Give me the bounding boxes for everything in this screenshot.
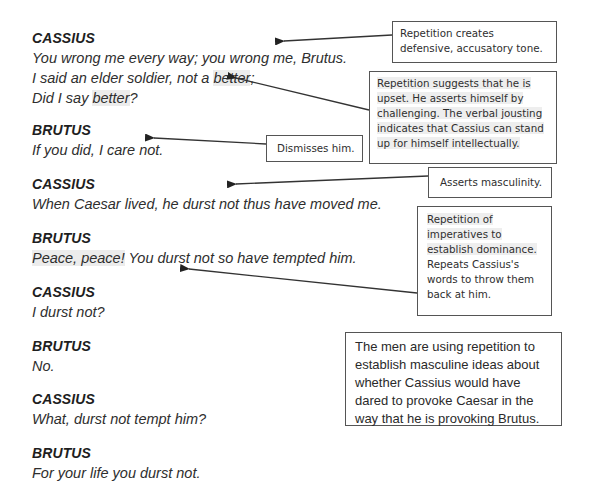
arrow-icon <box>189 269 417 293</box>
arrow-icon <box>154 138 266 144</box>
annotation-arrows <box>0 0 590 498</box>
arrow-icon <box>284 35 392 41</box>
arrow-icon <box>236 176 428 184</box>
arrow-icon <box>236 78 369 110</box>
